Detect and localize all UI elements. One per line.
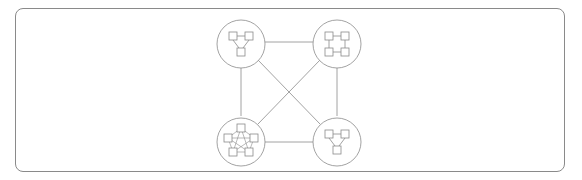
node-square — [341, 48, 349, 56]
cluster-bottom-left — [217, 118, 265, 166]
cluster-top-left — [217, 20, 265, 68]
node-square — [250, 134, 258, 142]
node-square — [325, 130, 333, 138]
node-square — [237, 48, 245, 56]
node-square — [333, 146, 341, 154]
node-square — [229, 148, 237, 156]
node-square — [229, 32, 237, 40]
node-square — [224, 134, 232, 142]
node-square — [325, 32, 333, 40]
cluster-bottom-right — [313, 118, 361, 166]
node-square — [341, 130, 349, 138]
cluster-top-right — [313, 20, 361, 68]
node-square — [245, 32, 253, 40]
network-diagram — [0, 0, 582, 180]
node-square — [245, 148, 253, 156]
node-square — [341, 32, 349, 40]
node-square — [237, 124, 245, 132]
node-square — [325, 48, 333, 56]
